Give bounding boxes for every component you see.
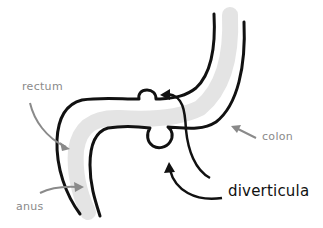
- diverticula-arrowhead-lower-icon: [164, 162, 175, 173]
- label-diverticula: diverticula: [228, 182, 309, 200]
- colon-pointer-arrow: [236, 128, 256, 138]
- label-colon: colon: [262, 130, 293, 143]
- label-rectum: rectum: [22, 80, 63, 93]
- intestine-shading: [76, 15, 231, 212]
- diverticula-pointer-lower: [170, 170, 222, 199]
- label-anus: anus: [16, 200, 44, 213]
